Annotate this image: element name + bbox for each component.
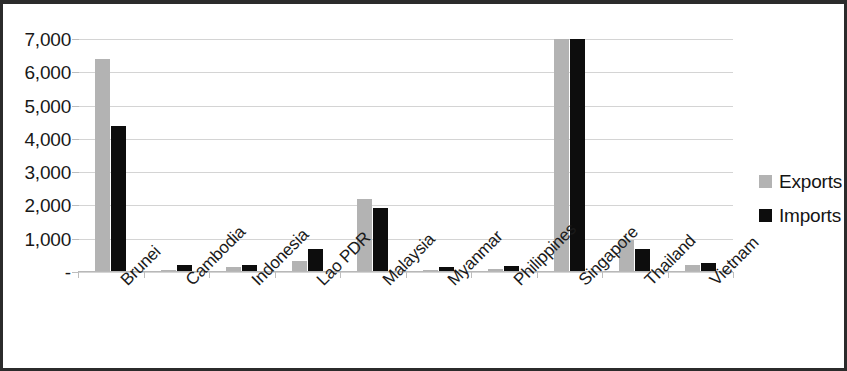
y-axis-tick <box>72 39 79 40</box>
bar-category-group <box>406 39 472 272</box>
y-axis-tick-label: 6,000 <box>9 63 71 82</box>
y-axis-tick-label: 5,000 <box>9 96 71 115</box>
y-axis-tick-label: 1,000 <box>9 229 71 248</box>
legend-item-exports[interactable]: Exports <box>759 164 847 198</box>
y-axis-tick <box>72 205 79 206</box>
y-axis-label-group: -1,0002,0003,0004,0005,0006,0007,000 <box>3 4 71 371</box>
y-axis-tick <box>72 172 79 173</box>
legend-label: Imports <box>779 206 841 225</box>
y-axis-tick <box>72 106 79 107</box>
bar-category-group <box>340 39 406 272</box>
bar-category-group <box>78 39 144 272</box>
x-axis-tick <box>471 272 472 278</box>
y-axis-tick <box>72 139 79 140</box>
x-axis-tick <box>602 272 603 278</box>
x-axis-tick <box>537 272 538 278</box>
legend-swatch-icon <box>759 175 772 188</box>
legend-item-imports[interactable]: Imports <box>759 198 847 232</box>
x-axis-tick <box>340 272 341 278</box>
y-axis-tick-label: - <box>9 263 71 282</box>
y-axis-tick-label: 2,000 <box>9 196 71 215</box>
legend-swatch-icon <box>759 209 772 222</box>
bar-category-group <box>668 39 734 272</box>
y-axis-tick <box>72 239 79 240</box>
y-axis-tick <box>72 72 79 73</box>
legend-label: Exports <box>779 172 842 191</box>
y-axis-tick-label: 7,000 <box>9 30 71 49</box>
x-axis-tick <box>209 272 210 278</box>
bar-exports-brunei <box>95 59 110 272</box>
bar-imports-brunei <box>111 126 126 272</box>
x-axis-label-group: BruneiCambodiaIndonesiaLao PDRMalaysiaMy… <box>78 276 733 366</box>
y-axis-tick-label: 3,000 <box>9 163 71 182</box>
x-axis-tick <box>406 272 407 278</box>
x-axis-tick <box>668 272 669 278</box>
bar-category-group <box>144 39 210 272</box>
x-axis-tick <box>144 272 145 278</box>
y-axis-tick-label: 4,000 <box>9 129 71 148</box>
x-axis-tick <box>78 272 79 278</box>
bar-imports-malaysia <box>373 208 388 272</box>
x-axis-tick <box>733 272 734 278</box>
chart-figure: -1,0002,0003,0004,0005,0006,0007,000 Bru… <box>0 0 847 371</box>
x-axis-tick <box>275 272 276 278</box>
chart-legend: ExportsImports <box>759 164 847 232</box>
